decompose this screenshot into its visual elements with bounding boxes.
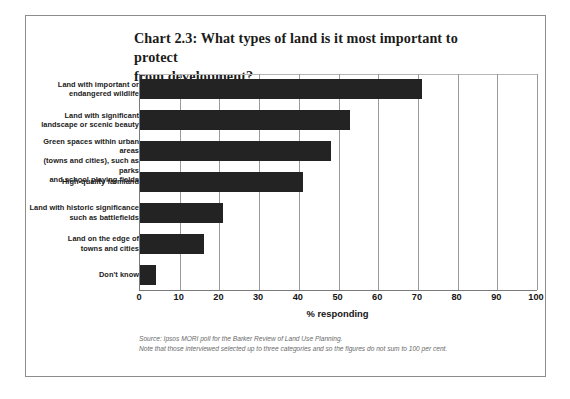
category-label: Land with significantlandscape or scenic… <box>26 111 139 130</box>
chart-title-line1: Chart 2.3: What types of land is it most… <box>134 29 464 67</box>
x-tick-label: 30 <box>253 292 263 302</box>
category-label-line: Land with important or <box>26 80 139 90</box>
category-label-line: towns and cities <box>26 244 139 254</box>
gridline <box>458 74 459 290</box>
category-label: High-quality farmland <box>26 177 139 187</box>
bar <box>140 172 303 192</box>
category-label-line: Land with significant <box>26 111 139 121</box>
category-label-line: Green spaces within urban areas <box>26 137 139 156</box>
footnote-source: Source: Ipsos MORI poll for the Barker R… <box>139 334 534 344</box>
gridline <box>497 74 498 290</box>
footnote-note: Note that those interviewed selected up … <box>139 344 534 354</box>
bar <box>140 141 331 161</box>
gridline <box>537 74 538 290</box>
category-label-line: such as battlefields <box>26 213 139 223</box>
category-axis-labels: Land with important orendangered wildlif… <box>26 74 139 290</box>
category-label: Land with historic significancesuch as b… <box>26 203 139 222</box>
x-tick-label: 90 <box>491 292 501 302</box>
x-tick-label: 100 <box>528 292 543 302</box>
x-axis-ticks: 0102030405060708090100 <box>139 292 536 306</box>
x-tick-label: 20 <box>213 292 223 302</box>
x-tick-label: 70 <box>412 292 422 302</box>
x-tick-label: 60 <box>372 292 382 302</box>
bar <box>140 79 422 99</box>
category-label: Don't know <box>26 270 139 280</box>
chart-figure: Chart 2.3: What types of land is it most… <box>25 15 546 377</box>
category-label-line: Land on the edge of <box>26 234 139 244</box>
x-tick-label: 40 <box>293 292 303 302</box>
gridline <box>378 74 379 290</box>
chart-footnote: Source: Ipsos MORI poll for the Barker R… <box>139 334 534 353</box>
bar <box>140 234 204 254</box>
x-tick-label: 80 <box>451 292 461 302</box>
category-label-line: (towns and cities), such as parks <box>26 156 139 175</box>
bar <box>140 203 223 223</box>
x-tick-label: 10 <box>174 292 184 302</box>
gridline <box>418 74 419 290</box>
gridline <box>339 74 340 290</box>
bar <box>140 110 350 130</box>
category-label: Land on the edge oftowns and cities <box>26 234 139 253</box>
plot-wrapper: Land with important orendangered wildlif… <box>26 74 547 304</box>
category-label: Land with important orendangered wildlif… <box>26 80 139 99</box>
category-label-line: High-quality farmland <box>26 177 139 187</box>
bar <box>140 265 156 285</box>
x-tick-label: 0 <box>136 292 141 302</box>
plot-area <box>139 74 537 291</box>
x-tick-label: 50 <box>332 292 342 302</box>
category-label-line: endangered wildlife <box>26 89 139 99</box>
x-axis-label: % responding <box>139 308 536 319</box>
category-label-line: Don't know <box>26 270 139 280</box>
category-label-line: landscape or scenic beauty <box>26 120 139 130</box>
category-label-line: Land with historic significance <box>26 203 139 213</box>
